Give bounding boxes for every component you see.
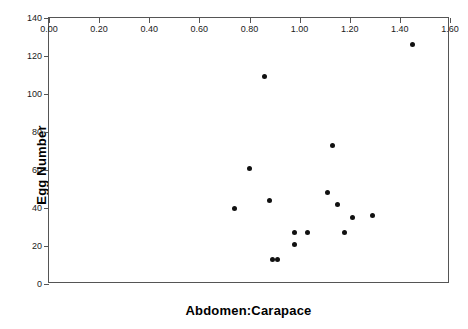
y-tick-label: 140 [27, 14, 42, 23]
x-tick-label: 1.60 [441, 25, 459, 34]
x-tick-mark [99, 18, 100, 23]
x-tick-mark [49, 18, 50, 23]
data-point [292, 230, 297, 235]
data-point [292, 242, 297, 247]
x-axis-title: Abdomen:Carapace [48, 303, 449, 318]
y-tick-mark [44, 246, 49, 247]
data-point [270, 257, 275, 262]
y-tick-label: 60 [32, 166, 42, 175]
y-tick-label: 80 [32, 128, 42, 137]
y-tick-mark [44, 284, 49, 285]
y-tick-mark [44, 170, 49, 171]
x-tick-label: 1.20 [341, 25, 359, 34]
y-tick-label: 100 [27, 90, 42, 99]
data-point [335, 202, 340, 207]
data-point [275, 257, 280, 262]
x-tick-label: 0.40 [140, 25, 158, 34]
data-point [262, 74, 267, 79]
x-tick-label: 1.00 [291, 25, 309, 34]
data-point [342, 230, 347, 235]
data-point [305, 230, 310, 235]
data-point [350, 215, 355, 220]
data-point [247, 166, 252, 171]
x-tick-mark [149, 18, 150, 23]
x-tick-label: 0.60 [191, 25, 209, 34]
data-points-layer [49, 18, 448, 282]
plot-area: 020406080100120140 0.000.200.400.600.801… [48, 17, 449, 283]
x-tick-label: 0.00 [40, 25, 58, 34]
data-point [410, 42, 415, 47]
x-tick-mark [250, 18, 251, 23]
data-point [370, 213, 375, 218]
data-point [267, 198, 272, 203]
data-point [232, 206, 237, 211]
y-tick-mark [44, 56, 49, 57]
y-tick-mark [44, 208, 49, 209]
y-tick-mark [44, 94, 49, 95]
y-tick-label: 40 [32, 204, 42, 213]
data-point [330, 143, 335, 148]
x-tick-label: 1.40 [391, 25, 409, 34]
x-tick-mark [199, 18, 200, 23]
x-tick-label: 0.80 [241, 25, 259, 34]
x-tick-mark [400, 18, 401, 23]
data-point [325, 190, 330, 195]
x-tick-mark [350, 18, 351, 23]
y-tick-label: 20 [32, 242, 42, 251]
scatter-chart-figure: Egg Number 020406080100120140 0.000.200.… [0, 0, 468, 329]
x-tick-mark [300, 18, 301, 23]
y-tick-label: 0 [37, 280, 42, 289]
x-tick-label: 0.20 [90, 25, 108, 34]
x-tick-mark [450, 18, 451, 23]
y-tick-mark [44, 132, 49, 133]
y-tick-label: 120 [27, 52, 42, 61]
